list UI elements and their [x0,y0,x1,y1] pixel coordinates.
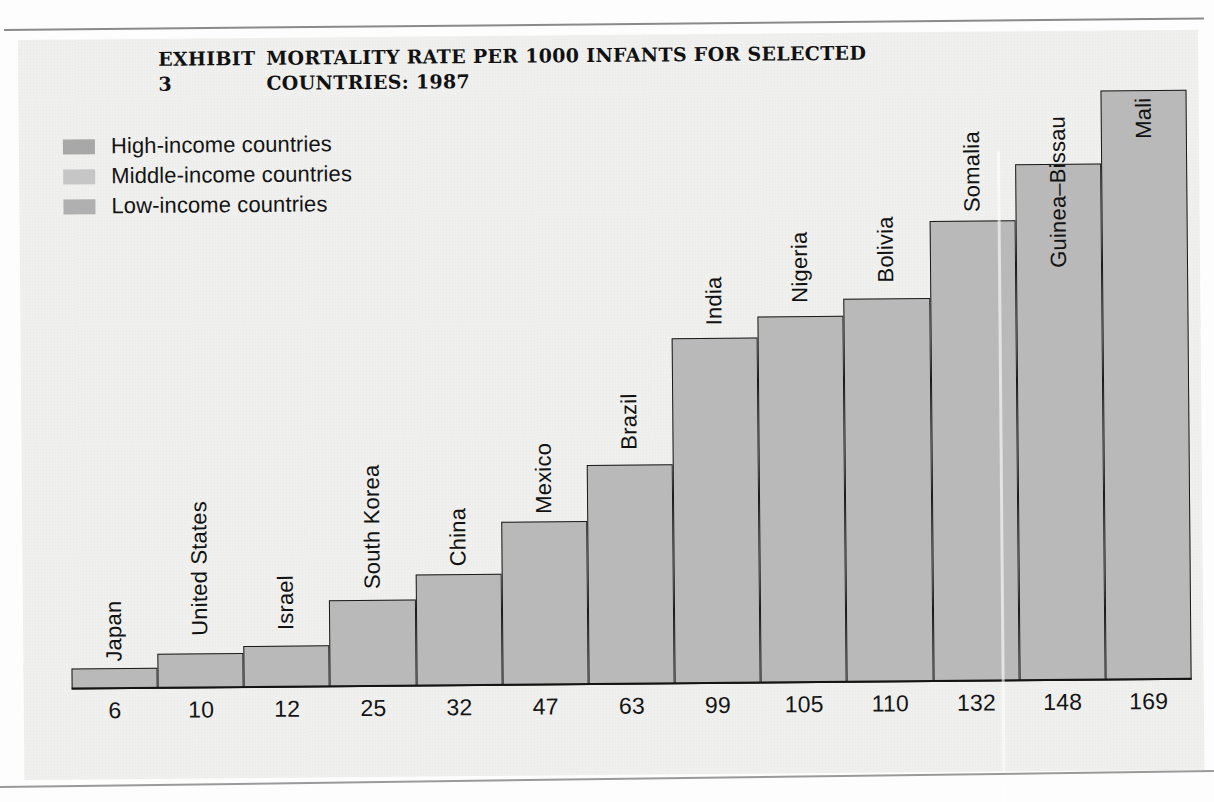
bar-cell: Nigeria [756,93,847,684]
bar[interactable]: Guinea–Bissau [1015,164,1106,681]
bar-cell: United States [153,98,244,689]
bar-country-label: Israel [273,575,299,630]
bar-value-label: 110 [847,690,933,718]
chart-title: MORTALITY RATE PER 1000 INFANTS FOR SELE… [266,41,876,96]
bar-value-label: 132 [933,689,1019,717]
bar-country-label: United States [186,501,213,636]
bar-cell: Israel [239,97,330,688]
bar-country-label: India [701,277,727,326]
bar-country-label: Mexico [530,443,557,514]
bar-cell: Somalia [928,91,1019,682]
bar-value-label: 47 [503,693,589,721]
bar-cell: Bolivia [842,92,933,683]
bar[interactable]: China [415,574,502,686]
bar[interactable]: Israel [244,645,331,688]
bar[interactable]: India [672,338,761,684]
bar-value-label: 99 [675,691,761,719]
bar[interactable]: Nigeria [758,316,847,683]
value-label-row: 610122532476399105110132148169 [72,684,1192,728]
bar-series: JapanUnited StatesIsraelSouth KoreaChina… [67,90,1192,690]
bar-cell: Mali [1100,90,1191,681]
bar-cell: China [411,96,502,687]
chart-panel: EXHIBIT 3MORTALITY RATE PER 1000 INFANTS… [18,30,1204,780]
plot-area: JapanUnited StatesIsraelSouth KoreaChina… [67,90,1192,730]
bar-value-label: 63 [589,692,675,720]
bar-country-label: Mali [1130,97,1156,138]
bar-cell: India [670,94,761,685]
bar-cell: Brazil [583,94,674,685]
bar[interactable]: Bolivia [844,298,934,683]
bar-value-label: 12 [244,695,330,723]
bar-value-label: 148 [1019,688,1105,716]
bar-country-label: Somalia [958,131,985,212]
bar-country-label: Japan [101,601,128,662]
exhibit-title-block: EXHIBIT 3MORTALITY RATE PER 1000 INFANTS… [158,40,918,97]
bar-country-label: Nigeria [787,232,814,303]
bar-value-label: 32 [416,693,502,721]
scanned-page: EXHIBIT 3MORTALITY RATE PER 1000 INFANTS… [0,0,1214,802]
bar[interactable]: South Korea [329,599,416,687]
exhibit-number-label: EXHIBIT 3 [158,46,266,97]
bar-value-label: 10 [158,696,244,724]
bar-value-label: 25 [330,694,416,722]
bar-value-label: 105 [761,690,847,718]
bar-cell: Japan [67,99,158,690]
bar[interactable]: Mexico [501,521,589,686]
bar-country-label: Guinea–Bissau [1045,116,1072,268]
bar-value-label: 169 [1106,687,1192,715]
bar-cell: Guinea–Bissau [1014,91,1105,682]
bar-country-label: Brazil [616,394,642,450]
bar[interactable]: Brazil [587,464,675,685]
bar-cell: South Korea [325,97,416,688]
bar[interactable]: Mali [1100,90,1191,681]
page-rule-top [4,17,1204,31]
bar-country-label: South Korea [358,464,385,589]
bar-country-label: China [445,508,472,567]
bar-cell: Mexico [497,95,588,686]
bar-value-label: 6 [72,696,158,724]
bar-country-label: Bolivia [873,216,900,282]
bar[interactable]: United States [158,653,244,689]
bar[interactable]: Somalia [929,220,1019,682]
